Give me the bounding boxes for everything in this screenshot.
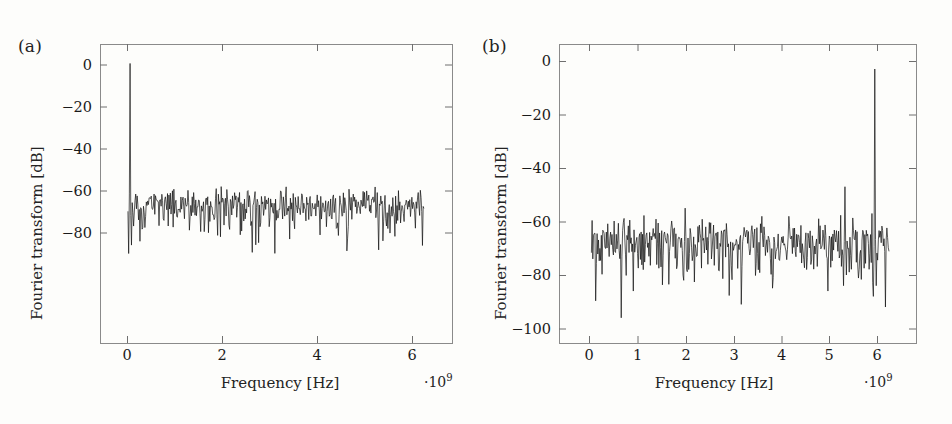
panel-b-xtick-label: 1 — [633, 347, 642, 363]
panel-a-ytick-label: 0 — [83, 57, 92, 73]
panel-b-ytick-label: −80 — [520, 267, 551, 283]
panel-a-ytick-label: −40 — [61, 141, 92, 157]
panel-b-ytick-label: −60 — [520, 214, 551, 230]
panel-b: (b) Fourier transform [dB] Frequency [Hz… — [476, 0, 952, 424]
panel-b-spectrum-trace — [591, 69, 889, 318]
panel-b-ytick-label: −40 — [520, 160, 551, 176]
panel-b-ytick-label: 0 — [542, 53, 551, 69]
panel-a-ytick-label: −20 — [61, 99, 92, 115]
panel-b-xtick-label: 5 — [824, 347, 833, 363]
panel-b-ytick-label: −20 — [520, 107, 551, 123]
panel-b-xtick-label: 3 — [729, 347, 738, 363]
panel-a-xtick-label: 0 — [122, 347, 131, 363]
panel-b-xtick-label: 2 — [681, 347, 690, 363]
panel-b-ytick-label: −100 — [511, 321, 551, 337]
figure-container: (a) Fourier transform [dB] Frequency [Hz… — [0, 0, 952, 424]
panel-a: (a) Fourier transform [dB] Frequency [Hz… — [0, 0, 476, 424]
panel-a-xtick-label: 4 — [312, 347, 321, 363]
panel-b-xtick-label: 0 — [584, 347, 593, 363]
panel-a-plot: 0−20−40−60−800246 — [0, 0, 476, 424]
panel-a-ytick-label: −80 — [61, 225, 92, 241]
panel-b-xtick-label: 6 — [872, 347, 881, 363]
panel-a-spectrum-trace — [128, 63, 424, 253]
panel-a-xtick-label: 2 — [217, 347, 226, 363]
panel-a-ytick-label: −60 — [61, 183, 92, 199]
panel-a-xtick-label: 6 — [407, 347, 416, 363]
panel-b-xtick-label: 4 — [777, 347, 786, 363]
panel-b-plot: 0−20−40−60−80−1000123456 — [476, 0, 952, 424]
